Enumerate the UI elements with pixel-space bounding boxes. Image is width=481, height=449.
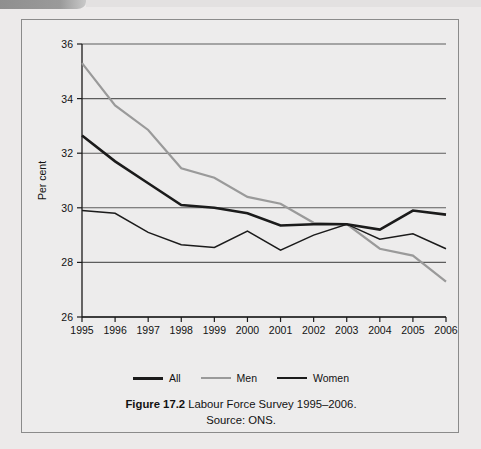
ytick-label-26: 26 xyxy=(61,311,73,323)
legend-label-men: Men xyxy=(237,372,257,384)
ytick-label-36: 36 xyxy=(61,38,73,50)
page-corner-tab xyxy=(0,0,86,9)
xtick-label-2003: 2003 xyxy=(335,324,359,336)
line-chart: 2628303234361995199619971998199920002001… xyxy=(22,20,460,365)
ytick-label-34: 34 xyxy=(61,93,73,105)
xtick-label-2001: 2001 xyxy=(269,324,293,336)
ytick-label-32: 32 xyxy=(61,147,73,159)
legend-label-women: Women xyxy=(313,372,349,384)
ytick-label-28: 28 xyxy=(61,256,73,268)
chart-plot-area: 2628303234361995199619971998199920002001… xyxy=(22,20,460,365)
page-top-strip xyxy=(86,0,481,7)
figure-container: 2628303234361995199619971998199920002001… xyxy=(21,19,459,433)
caption-title: Labour Force Survey 1995–2006. xyxy=(188,398,356,410)
series-line-women xyxy=(82,211,446,251)
xtick-label-2002: 2002 xyxy=(302,324,326,336)
xtick-label-2004: 2004 xyxy=(368,324,392,336)
xtick-label-2006: 2006 xyxy=(434,324,458,336)
caption-line-1: Figure 17.2 Labour Force Survey 1995–200… xyxy=(22,396,460,412)
xtick-label-1996: 1996 xyxy=(103,324,127,336)
xtick-label-1995: 1995 xyxy=(70,324,94,336)
legend-item-women: Women xyxy=(277,372,349,384)
figure-caption: Figure 17.2 Labour Force Survey 1995–200… xyxy=(22,396,460,428)
legend-item-all: All xyxy=(133,372,181,384)
xtick-label-2000: 2000 xyxy=(236,324,260,336)
xtick-label-1999: 1999 xyxy=(203,324,227,336)
ytick-label-30: 30 xyxy=(61,202,73,214)
xtick-label-2005: 2005 xyxy=(401,324,425,336)
caption-figure-number: Figure 17.2 xyxy=(125,398,185,410)
legend-swatch-women xyxy=(277,377,307,379)
xtick-label-1998: 1998 xyxy=(170,324,194,336)
legend-swatch-all xyxy=(133,377,163,380)
chart-legend: All Men Women xyxy=(22,365,460,391)
series-line-men xyxy=(82,63,446,281)
legend-item-men: Men xyxy=(201,372,257,384)
series-line-all xyxy=(82,135,446,229)
legend-swatch-men xyxy=(201,377,231,379)
xtick-label-1997: 1997 xyxy=(137,324,161,336)
y-axis-title: Per cent xyxy=(36,161,48,200)
legend-label-all: All xyxy=(169,372,181,384)
caption-source: Source: ONS. xyxy=(22,412,460,428)
